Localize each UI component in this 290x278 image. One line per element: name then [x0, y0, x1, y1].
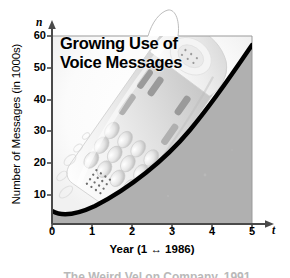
y-axis-variable-symbol: n	[36, 16, 42, 28]
y-tick-label: 60	[24, 30, 46, 41]
photo-top-bulge	[148, 10, 179, 36]
x-tick-label: 3	[162, 225, 182, 237]
y-axis-arrow	[48, 20, 56, 29]
y-tick-label: 50	[24, 62, 46, 73]
x-tick-label: 2	[122, 225, 142, 237]
y-axis-label: Number of Messages (in 1000s)	[6, 19, 26, 229]
clipped-caption: The Weird Vel on Company, 1991	[52, 270, 262, 278]
chart-figure: 60 50 40 30 20 10 0 1 2 3 4 5 n t Number…	[0, 0, 290, 278]
y-tick-label: 20	[24, 157, 46, 168]
y-tick-label: 30	[24, 125, 46, 136]
x-tick-label: 0	[42, 225, 62, 237]
x-tick-label: 4	[202, 225, 222, 237]
x-tick-label: 1	[82, 225, 102, 237]
y-tick-label: 40	[24, 94, 46, 105]
x-axis-label: Year (1 ↔ 1986)	[52, 243, 252, 255]
x-tick-label: 5	[242, 225, 262, 237]
y-tick-label: 10	[24, 189, 46, 200]
x-axis-variable-symbol: t	[272, 224, 275, 236]
